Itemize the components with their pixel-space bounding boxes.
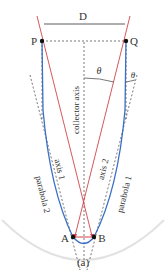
axis1-label: axis 1 bbox=[52, 158, 67, 181]
outer-arc bbox=[2, 220, 164, 260]
point-p-dot bbox=[40, 39, 44, 43]
point-p-label: P bbox=[31, 35, 37, 47]
caption: (a) bbox=[77, 256, 90, 269]
point-a-dot bbox=[71, 235, 75, 239]
axis2-line bbox=[87, 75, 137, 270]
width-label: D bbox=[79, 10, 87, 22]
collector-axis-label: collector axis bbox=[71, 85, 81, 134]
theta-edge-arc bbox=[126, 80, 135, 82]
theta-center-label: θ bbox=[97, 65, 102, 76]
cpc-diagram: D θ θ P Q A B collector axis axis 1 axis… bbox=[0, 0, 167, 280]
parabola1-label: parabola 1 bbox=[115, 175, 134, 214]
point-b-dot bbox=[92, 235, 96, 239]
theta-edge-label: θ bbox=[131, 70, 136, 80]
theta-center-arc bbox=[84, 78, 114, 82]
parabola2-label: parabola 2 bbox=[33, 175, 52, 214]
point-b-label: B bbox=[98, 232, 105, 244]
point-q-label: Q bbox=[130, 35, 138, 47]
axis2-label: axis 2 bbox=[96, 158, 111, 181]
point-q-dot bbox=[124, 39, 128, 43]
point-a-label: A bbox=[61, 232, 69, 244]
